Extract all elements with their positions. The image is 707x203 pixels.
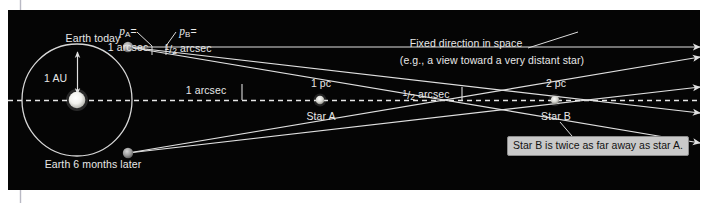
callout-star-b-distance: Star B is twice as far away as star A.: [507, 136, 689, 156]
p-b-unit: arcsec: [177, 42, 212, 54]
label-star-a: Star A: [306, 110, 335, 122]
label-one-au: 1 AU: [44, 72, 67, 84]
label-p-b: pB= 1/2 arcsec: [164, 25, 211, 57]
label-distance-star-a: 1 pc: [311, 77, 331, 89]
diagram-canvas: [0, 0, 707, 203]
parallax-figure: pA= 1 arcsec pB= 1/2 arcsec Earth today …: [0, 0, 707, 203]
earth-six-months-later-marker: [123, 148, 133, 158]
star-a-marker: [314, 94, 327, 107]
p-b-value-fraction: 1/2: [164, 41, 177, 57]
label-star-b: Star B: [541, 110, 571, 122]
star-b-marker: [549, 94, 561, 106]
label-fixed-direction: Fixed direction in space: [410, 37, 523, 49]
p-a-equals: =: [131, 25, 137, 37]
label-earth-today: Earth today: [66, 32, 121, 44]
label-angle-half-arcsec: 1/2 arcsec: [402, 87, 449, 103]
p-b-equals: =: [191, 25, 197, 37]
label-fixed-direction-note: (e.g., a view toward a very distant star…: [400, 54, 584, 66]
label-distance-star-b: 2 pc: [546, 77, 566, 89]
half-arcsec-fraction: 1/2: [402, 87, 415, 103]
label-earth-six-months-later: Earth 6 months later: [45, 158, 142, 170]
half-arcsec-unit: arcsec: [415, 88, 450, 100]
label-angle-one-arcsec: 1 arcsec: [186, 84, 226, 96]
sun-marker: [66, 89, 88, 111]
